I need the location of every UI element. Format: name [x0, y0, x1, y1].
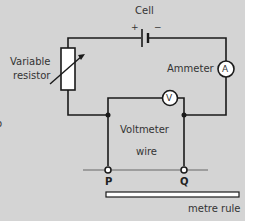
- wire-label: wire: [136, 146, 157, 158]
- contact-p: [105, 167, 111, 173]
- variable-resistor-label-1: Variable: [10, 56, 51, 68]
- metre-rule: [106, 192, 239, 197]
- cell-plus-sign: +: [131, 21, 139, 33]
- voltmeter-label: Voltmeter: [120, 124, 169, 136]
- contact-q: [181, 167, 187, 173]
- variable-resistor-label-2: resistor: [13, 70, 50, 82]
- cell-minus-sign: −: [154, 21, 162, 33]
- circuit-diagram: [0, 0, 253, 221]
- cell-symbol: [142, 29, 148, 47]
- metre-rule-label: metre rule: [188, 203, 240, 215]
- voltmeter-symbol-letter: V: [166, 92, 172, 104]
- variable-resistor-symbol: [50, 48, 85, 90]
- left-text-fragment: o: [0, 118, 2, 130]
- point-p-label: P: [105, 176, 112, 188]
- junction-dot-right: [182, 113, 187, 118]
- point-q-label: Q: [180, 176, 189, 188]
- junction-dot-left: [106, 113, 111, 118]
- ammeter-symbol-letter: A: [222, 63, 228, 75]
- ammeter-label: Ammeter: [167, 63, 214, 75]
- cell-label: Cell: [135, 5, 154, 17]
